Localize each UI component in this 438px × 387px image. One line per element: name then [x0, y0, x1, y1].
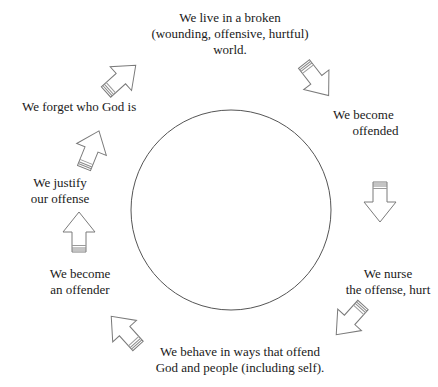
- arrow-down-icon: [364, 182, 396, 222]
- stage-forget-god: We forget who God is: [22, 99, 136, 115]
- stage-become-offender: We become an offender: [40, 266, 120, 298]
- arrow-down-right-icon: [291, 54, 341, 105]
- arrow-down-left-icon: [324, 294, 375, 345]
- stage-nurse-offense: We nurse the offense, hurt: [336, 266, 438, 298]
- stage-become-offended: We become offended: [333, 107, 398, 139]
- arrow-up-left-icon: [99, 306, 150, 357]
- stage-behave-offensively: We behave in ways that offend God and pe…: [145, 344, 335, 376]
- arrow-up-right-icon: [95, 53, 146, 104]
- center-circle: [131, 110, 331, 310]
- arrow-up-right-icon: [69, 125, 114, 174]
- stage-broken-world: We live in a broken (wounding, offensive…: [140, 10, 320, 58]
- arrow-up-icon: [63, 212, 95, 252]
- stage-justify-offense: We justify our offense: [20, 175, 100, 207]
